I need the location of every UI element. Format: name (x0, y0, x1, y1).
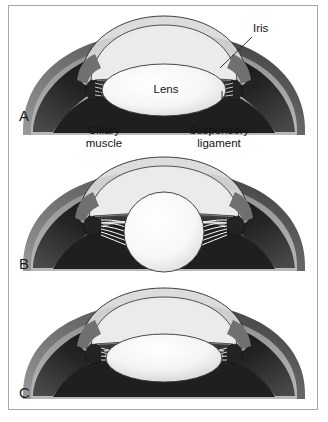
figure-root: A Iris Lens Ciliary muscle Suspensory li… (0, 0, 328, 422)
panel-b: B (9, 154, 319, 284)
panel-letter-c: C (19, 384, 30, 401)
panel-c: C (9, 284, 319, 411)
panel-letter-b: B (19, 255, 29, 272)
label-suspensory-ligament: Suspensory ligament (180, 124, 258, 149)
panel-letter-a: A (19, 107, 29, 124)
figure-border: A Iris Lens Ciliary muscle Suspensory li… (8, 5, 318, 410)
panel-b-illustration (9, 154, 319, 284)
label-ciliary-muscle: Ciliary muscle (75, 124, 133, 149)
label-iris: Iris (253, 22, 268, 35)
panel-a: A (9, 6, 319, 154)
panel-c-illustration (9, 284, 319, 411)
lens-b (124, 192, 204, 272)
panel-a-illustration (9, 6, 319, 154)
label-lens: Lens (148, 83, 184, 96)
lens-c (106, 334, 222, 382)
